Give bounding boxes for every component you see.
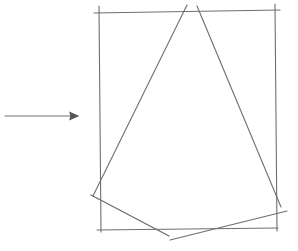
rectangle-outline xyxy=(94,4,280,232)
figure-caption xyxy=(70,243,240,251)
diverging-lines xyxy=(93,5,281,207)
arrow-right-icon xyxy=(5,113,78,120)
bottom-crossing-lines xyxy=(91,195,287,240)
sketch-diagram xyxy=(0,0,298,251)
